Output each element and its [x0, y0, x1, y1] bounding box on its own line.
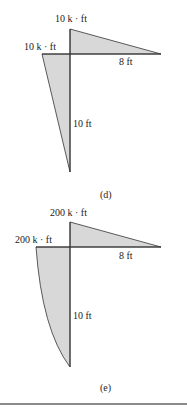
- column-moment-area-e: [36, 247, 70, 367]
- vertical-length-label-e: 10 ft: [73, 311, 92, 321]
- beam-moment-area-e: [70, 222, 161, 247]
- diagram-e: [36, 222, 161, 367]
- divider-line: [0, 403, 187, 405]
- caption-e: (e): [100, 383, 111, 393]
- horizontal-length-label-e: 8 ft: [119, 251, 133, 261]
- top-moment-label-d: 10 k · ft: [55, 14, 87, 24]
- diagram-d: [42, 29, 161, 172]
- top-moment-label-e: 200 k · ft: [50, 208, 87, 218]
- beam-moment-area-d: [70, 29, 161, 54]
- column-moment-area-d: [42, 54, 70, 172]
- caption-d: (d): [100, 190, 112, 200]
- left-moment-label-d: 10 k · ft: [24, 42, 56, 52]
- moment-diagrams: [0, 0, 187, 416]
- vertical-length-label-d: 10 ft: [73, 119, 92, 129]
- horizontal-length-label-d: 8 ft: [119, 57, 133, 67]
- left-moment-label-e: 200 k · ft: [15, 235, 52, 245]
